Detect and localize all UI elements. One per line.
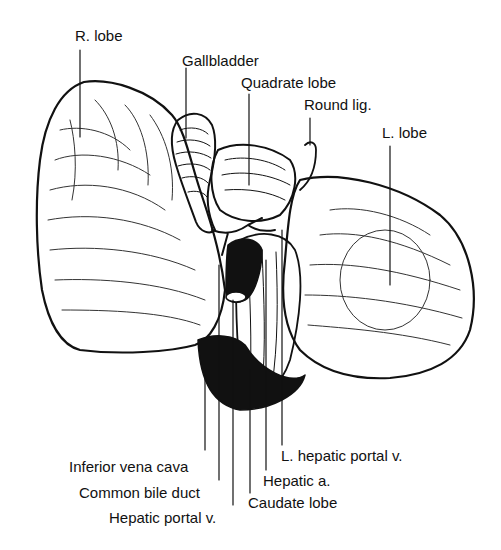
label-r-lobe: R. lobe [75, 28, 123, 44]
label-quadrate-lobe: Quadrate lobe [241, 75, 336, 91]
label-l-lobe: L. lobe [382, 125, 427, 141]
round-ligament-shape [300, 142, 316, 190]
label-caudate-lobe: Caudate lobe [248, 495, 337, 511]
label-hepatic-portal-v: Hepatic portal v. [109, 510, 216, 526]
label-l-hepatic-portal-v: L. hepatic portal v. [281, 448, 402, 464]
label-inferior-vena-cava: Inferior vena cava [69, 459, 188, 475]
label-common-bile-duct: Common bile duct [79, 485, 200, 501]
gallbladder-shape [172, 114, 216, 233]
left-lobe-shape [283, 177, 474, 378]
label-hepatic-a: Hepatic a. [263, 473, 331, 489]
label-gallbladder: Gallbladder [182, 53, 259, 69]
quadrate-lobe-shape [211, 145, 295, 221]
inferior-vena-cava-shape [198, 336, 305, 410]
label-round-lig: Round lig. [304, 97, 372, 113]
right-lobe-shape [37, 81, 225, 352]
